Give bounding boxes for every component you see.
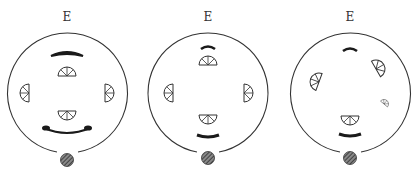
bottom-fan-icon [341, 116, 359, 125]
top-fan-icon [58, 67, 76, 76]
bottom-fan-icon [199, 115, 217, 124]
panel-3-label: E [346, 10, 355, 24]
top-crescent-mark [51, 52, 83, 56]
panel-2: E [148, 10, 268, 165]
panel-2-label: E [204, 10, 213, 24]
panel-3: E [291, 10, 411, 165]
right-fan-icon [105, 84, 114, 102]
top-fan-icon [199, 56, 217, 65]
panel-1-label: E [63, 10, 72, 24]
hatched-node [202, 152, 215, 165]
panel-1: E [8, 10, 128, 167]
hatched-node [344, 152, 357, 165]
left-fan-icon [20, 84, 29, 102]
bottom-crescent-mark [197, 135, 219, 137]
left-fan-icon [307, 70, 322, 90]
diagram-figure: E E E [0, 0, 420, 171]
bottom-blob-right [84, 125, 92, 130]
bottom-crescent-mark [44, 128, 90, 133]
right-fan-icon [244, 84, 253, 102]
hatched-node [61, 154, 74, 167]
left-fan-icon [164, 84, 173, 102]
outer-ring [291, 33, 411, 152]
top-crescent-mark [343, 49, 357, 52]
bottom-crescent-mark [339, 134, 361, 136]
right-fan-icon [372, 57, 389, 77]
top-crescent-mark [201, 47, 215, 50]
bottom-blob-left [42, 125, 50, 130]
small-fan-icon [381, 98, 391, 107]
bottom-fan-icon [58, 111, 76, 120]
